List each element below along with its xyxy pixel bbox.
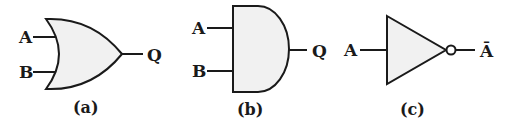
or-caption: (a) — [73, 98, 99, 117]
diagram-svg: A B Q (a) A B Q (b) A Ā (c) — [0, 0, 509, 129]
or-input-b-label: B — [19, 62, 33, 82]
and-output-label: Q — [312, 41, 327, 61]
and-gate-symbol — [233, 6, 289, 92]
or-output-label: Q — [147, 45, 162, 65]
inversion-bubble-icon — [447, 46, 456, 55]
and-caption: (b) — [237, 100, 263, 119]
or-gate-figure: A B Q (a) — [18, 19, 162, 117]
not-gate-symbol — [387, 16, 446, 84]
not-input-label: A — [343, 40, 358, 60]
or-gate-symbol — [46, 19, 122, 89]
and-input-a-label: A — [191, 18, 206, 38]
and-gate-figure: A B Q (b) — [191, 6, 327, 119]
logic-gates-diagram: A B Q (a) A B Q (b) A Ā (c) — [0, 0, 509, 129]
not-gate-figure: A Ā (c) — [343, 16, 494, 119]
and-input-b-label: B — [192, 61, 206, 81]
or-input-a-label: A — [18, 27, 33, 47]
not-caption: (c) — [400, 100, 425, 119]
not-output-label: Ā — [479, 41, 494, 61]
